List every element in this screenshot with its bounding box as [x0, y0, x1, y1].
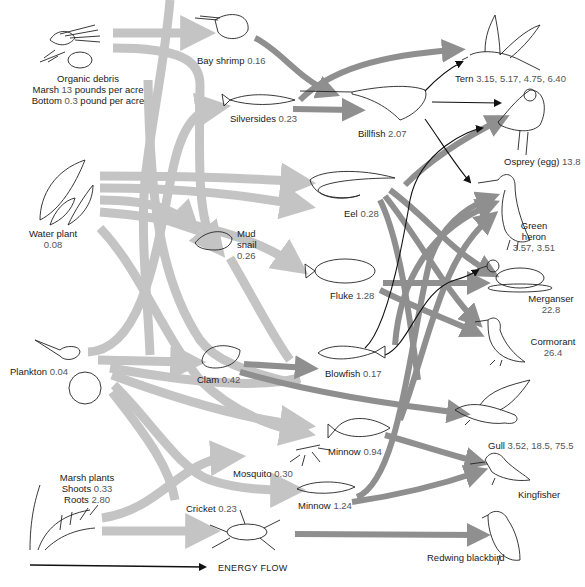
energy-flow-legend: [30, 565, 205, 567]
roots-value: 2.80: [91, 494, 110, 505]
green-heron-value: 3.57, 3.51: [502, 242, 566, 253]
tern-value: 3.15, 5.17, 4.75, 6.40: [476, 73, 566, 84]
plankton-name: Plankton: [10, 366, 47, 377]
merganser-value: 22.8: [525, 304, 577, 315]
eel-value: 0.28: [360, 208, 379, 219]
bay-shrimp-label: Bay shrimp 0.16: [197, 55, 266, 66]
green-heron-label: Green heron 3.57, 3.51: [502, 220, 566, 253]
billfish-value: 2.07: [388, 128, 407, 139]
merganser-icon: [478, 260, 552, 292]
osprey-icon: [498, 89, 544, 155]
minnow-b-icon: [297, 482, 355, 493]
organic-debris-label: Organic debris Marsh 13 pounds per acre …: [28, 73, 148, 106]
blowfish-icon: [318, 346, 385, 359]
bay-shrimp-icon: [195, 15, 248, 39]
silversides-label: Silversides 0.23: [230, 113, 297, 124]
bottom-unit: pound per acre: [80, 95, 144, 106]
organic-debris-bottom: Bottom 0.3 pound per acre: [28, 95, 148, 106]
billfish-icon: [300, 86, 426, 120]
minnow-a-value: 0.94: [363, 446, 382, 457]
cormorant-value: 26.4: [525, 347, 581, 358]
cormorant-label: Cormorant 26.4: [525, 336, 581, 358]
tern-icon: [462, 15, 540, 70]
cricket-name: Cricket: [186, 503, 216, 514]
tern-name: Tern: [455, 73, 473, 84]
fluke-value: 1.28: [356, 290, 375, 301]
mud-snail-value: 0.26: [237, 250, 257, 261]
marsh-value: 13: [62, 84, 73, 95]
gull-icon: [455, 380, 530, 425]
minnow-b-value: 1.24: [333, 500, 352, 511]
gull-label: Gull 3.52, 18.5, 75.5: [488, 440, 574, 451]
minnow-b-label: Minnow 1.24: [298, 500, 352, 511]
minnow-a-icon: [328, 418, 390, 438]
eel-name: Eel: [344, 208, 358, 219]
shoots-value: 0.33: [94, 483, 113, 494]
clam-label: Clam 0.42: [197, 374, 240, 385]
blowfish-label: Blowfish 0.17: [325, 368, 382, 379]
organic-debris-marsh: Marsh 13 pounds per acre: [28, 84, 148, 95]
minnow-a-name: Minnow: [328, 446, 361, 457]
mosquito-value: 0.30: [274, 468, 293, 479]
fluke-name: Fluke: [330, 290, 353, 301]
water-plant-name: Water plant: [23, 228, 83, 239]
gull-name: Gull: [488, 440, 505, 451]
marsh-plants-name: Marsh plants: [57, 472, 117, 483]
cricket-value: 0.23: [218, 503, 237, 514]
water-plant-icon: [40, 160, 93, 225]
organic-debris-icon: [40, 25, 100, 68]
silversides-name: Silversides: [230, 113, 276, 124]
osprey-value: 13.8: [562, 156, 581, 167]
cricket-icon: [210, 510, 280, 550]
kingfisher-label: Kingfisher: [518, 489, 560, 500]
billfish-label: Billfish 2.07: [358, 128, 407, 139]
bay-shrimp-name: Bay shrimp: [197, 55, 245, 66]
minnow-b-name: Minnow: [298, 500, 331, 511]
plankton-value: 0.04: [50, 366, 69, 377]
marsh-plants-shoots: Shoots 0.33: [57, 483, 117, 494]
redwing-blackbird-name: Redwing blackbird: [427, 552, 505, 563]
marsh-plants-label: Marsh plants Shoots 0.33 Roots 2.80: [57, 472, 117, 505]
marsh-plants-roots: Roots 2.80: [57, 494, 117, 505]
merganser-label: Merganser 22.8: [525, 293, 577, 315]
eel-label: Eel 0.28: [344, 208, 379, 219]
blowfish-name: Blowfish: [325, 368, 360, 379]
plankton-label: Plankton 0.04: [10, 366, 68, 377]
silversides-value: 0.23: [279, 113, 298, 124]
billfish-name: Billfish: [358, 128, 385, 139]
redwing-blackbird-label: Redwing blackbird: [427, 552, 505, 563]
organic-debris-name: Organic debris: [28, 73, 148, 84]
eel-icon: [310, 171, 395, 198]
cormorant-icon: [475, 318, 525, 366]
water-plant-value: 0.08: [23, 239, 83, 250]
bottom-value: 0.3: [64, 95, 77, 106]
kingfisher-icon: [470, 453, 530, 485]
energy-flow-label: ENERGY FLOW: [218, 563, 288, 574]
blowfish-value: 0.17: [363, 368, 382, 379]
cormorant-name: Cormorant: [525, 336, 581, 347]
mosquito-label: Mosquito 0.30: [233, 468, 293, 479]
clam-value: 0.42: [222, 374, 241, 385]
clam-name: Clam: [197, 374, 219, 385]
fluke-label: Fluke 1.28: [330, 290, 374, 301]
mosquito-icon: [290, 445, 330, 466]
bay-shrimp-value: 0.16: [247, 55, 266, 66]
marsh-unit: pounds per acre: [75, 84, 144, 95]
green-heron-name-1: Green: [502, 220, 566, 231]
mud-snail-label: Mud snail 0.26: [237, 228, 257, 261]
kingfisher-name: Kingfisher: [518, 489, 560, 500]
mud-snail-name-2: snail: [237, 239, 257, 250]
osprey-name: Osprey (egg): [504, 156, 559, 167]
silversides-icon: [222, 94, 295, 106]
water-plant-label: Water plant 0.08: [23, 228, 83, 250]
gull-value: 3.52, 18.5, 75.5: [508, 440, 574, 451]
tern-label: Tern 3.15, 5.17, 4.75, 6.40: [455, 73, 566, 84]
shoots-label: Shoots: [62, 483, 92, 494]
roots-label: Roots: [64, 494, 89, 505]
merganser-name: Merganser: [525, 293, 577, 304]
marsh-label: Marsh: [33, 84, 59, 95]
mosquito-name: Mosquito: [233, 468, 272, 479]
minnow-a-label: Minnow 0.94: [328, 446, 382, 457]
green-heron-name-2: heron: [502, 231, 566, 242]
bottom-label: Bottom: [32, 95, 62, 106]
